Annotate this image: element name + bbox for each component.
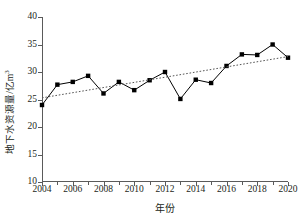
data-point-marker bbox=[240, 52, 244, 56]
data-point-marker bbox=[286, 56, 290, 60]
data-point-marker bbox=[255, 53, 259, 57]
x-axis-tick-labels: 200420062008201020122014201620182020 bbox=[42, 185, 288, 199]
x-axis-label: 年份 bbox=[42, 200, 288, 215]
data-point-marker bbox=[40, 103, 44, 107]
data-point-marker bbox=[209, 81, 213, 85]
x-axis-tick-label: 2018 bbox=[248, 185, 267, 195]
x-axis-tick-label: 2004 bbox=[33, 185, 52, 195]
data-point-marker bbox=[194, 78, 198, 82]
data-point-marker bbox=[178, 97, 182, 101]
plot-area bbox=[42, 17, 288, 182]
x-axis-tick-label: 2014 bbox=[186, 185, 205, 195]
data-line bbox=[42, 45, 288, 106]
x-axis-tick-label: 2010 bbox=[125, 185, 144, 195]
series-canvas bbox=[42, 17, 288, 182]
x-axis-tick-label: 2020 bbox=[279, 185, 298, 195]
data-point-marker bbox=[163, 70, 167, 74]
data-point-marker bbox=[101, 91, 105, 95]
data-point-marker bbox=[270, 42, 274, 46]
groundwater-resources-line-chart: 地下水资源量/亿m3 10152025303540 20042006200820… bbox=[0, 0, 299, 223]
data-point-marker bbox=[71, 80, 75, 84]
x-axis-tick-label: 2008 bbox=[94, 185, 113, 195]
data-point-marker bbox=[55, 82, 59, 86]
trend-line bbox=[42, 57, 288, 98]
data-point-marker bbox=[86, 74, 90, 78]
data-point-marker bbox=[132, 88, 136, 92]
x-axis-tick-label: 2012 bbox=[156, 185, 175, 195]
x-axis-tick-label: 2006 bbox=[63, 185, 82, 195]
data-point-marker bbox=[117, 80, 121, 84]
data-point-marker bbox=[224, 64, 228, 68]
x-axis-tick-label: 2016 bbox=[217, 185, 236, 195]
y-axis-tick-labels: 10152025303540 bbox=[0, 17, 37, 182]
